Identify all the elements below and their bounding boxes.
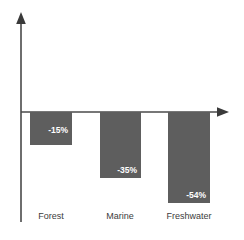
arrow-right-icon [217,107,229,117]
bar-group-forest: -15% [30,112,72,145]
bar-value-forest: -15% [48,125,68,135]
chart-canvas: -15% -35% -54% Forest Marine Freshwater [0,0,244,240]
bar-chart-figure: -15% -35% -54% Forest Marine Freshwater [0,0,244,240]
category-label-freshwater: Freshwater [166,211,211,221]
category-label-forest: Forest [38,211,64,221]
bar-value-freshwater: -54% [186,190,206,200]
arrow-up-icon [16,12,26,24]
bar-value-marine: -35% [117,165,137,175]
bar-group-freshwater: -54% [168,112,210,203]
category-label-marine: Marine [106,211,134,221]
bar-group-marine: -35% [100,112,141,178]
